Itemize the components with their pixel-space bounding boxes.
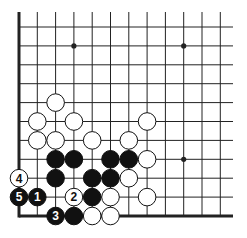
black-stone (102, 169, 120, 187)
black-stone-icon (102, 169, 120, 187)
black-stone (47, 151, 65, 169)
move-number-label: 5 (16, 190, 23, 204)
white-stone-icon (138, 151, 156, 169)
black-stone (83, 169, 101, 187)
black-stone-icon (65, 151, 83, 169)
white-stone (83, 132, 101, 150)
white-stone-icon (102, 207, 120, 225)
black-stone-move-5: 5 (10, 188, 28, 206)
black-stone-move-3: 3 (47, 207, 65, 225)
white-stone (138, 151, 156, 169)
white-stone-icon (29, 113, 47, 131)
black-stone (65, 207, 83, 225)
white-stone-icon (83, 132, 101, 150)
move-number-label: 3 (52, 209, 59, 223)
star-point-icon (71, 43, 76, 48)
black-stone-icon (83, 188, 101, 206)
black-stone-icon (65, 207, 83, 225)
white-stone-move-4: 4 (10, 169, 28, 187)
white-stone-move-2: 2 (65, 188, 83, 206)
black-stone-icon (120, 151, 138, 169)
white-stone-icon (47, 94, 65, 112)
white-stone (47, 94, 65, 112)
white-stone (120, 169, 138, 187)
star-point-icon (181, 157, 186, 162)
white-stone (102, 207, 120, 225)
black-stone-icon (47, 151, 65, 169)
white-stone (29, 113, 47, 131)
white-stone-icon (83, 207, 101, 225)
black-stone-icon (102, 151, 120, 169)
white-stone-icon (138, 113, 156, 131)
black-stone (83, 188, 101, 206)
star-point-icon (181, 43, 186, 48)
white-stone-icon (47, 132, 65, 150)
move-number-label: 1 (34, 190, 41, 204)
go-board: 45123 (0, 0, 247, 238)
white-stone-icon (138, 188, 156, 206)
black-stone (47, 169, 65, 187)
white-stone (102, 188, 120, 206)
black-stone-icon (47, 169, 65, 187)
white-stone-icon (120, 132, 138, 150)
black-stone (102, 151, 120, 169)
white-stone (47, 132, 65, 150)
white-stone-icon (65, 113, 83, 131)
white-stone (138, 113, 156, 131)
white-stone (65, 113, 83, 131)
white-stone (83, 207, 101, 225)
black-stone-move-1: 1 (29, 188, 47, 206)
black-stone (65, 151, 83, 169)
black-stone (120, 151, 138, 169)
white-stone-icon (29, 132, 47, 150)
black-stone-icon (83, 169, 101, 187)
white-stone (120, 132, 138, 150)
white-stone-icon (102, 188, 120, 206)
move-number-label: 4 (16, 172, 23, 186)
white-stone-icon (120, 169, 138, 187)
white-stone (29, 132, 47, 150)
move-number-label: 2 (71, 190, 78, 204)
white-stone (138, 188, 156, 206)
